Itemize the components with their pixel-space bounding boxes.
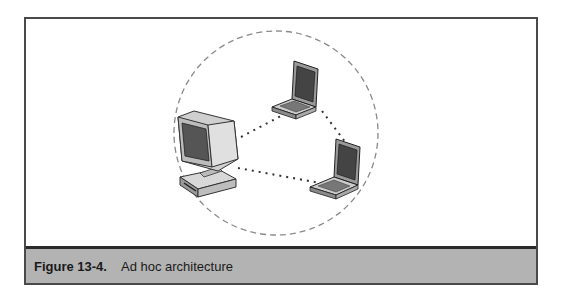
- figure-frame: Figure 13-4. Ad hoc architecture: [24, 17, 538, 285]
- diagram-area: [26, 19, 536, 248]
- desktop-computer-icon: [178, 111, 238, 197]
- figure-caption: Figure 13-4. Ad hoc architecture: [26, 246, 536, 283]
- laptop-icon: [272, 61, 318, 119]
- figure-title: Ad hoc architecture: [121, 259, 233, 274]
- figure-label: Figure 13-4.: [34, 259, 107, 274]
- ad-hoc-diagram: [26, 19, 536, 248]
- laptop-icon: [310, 139, 360, 199]
